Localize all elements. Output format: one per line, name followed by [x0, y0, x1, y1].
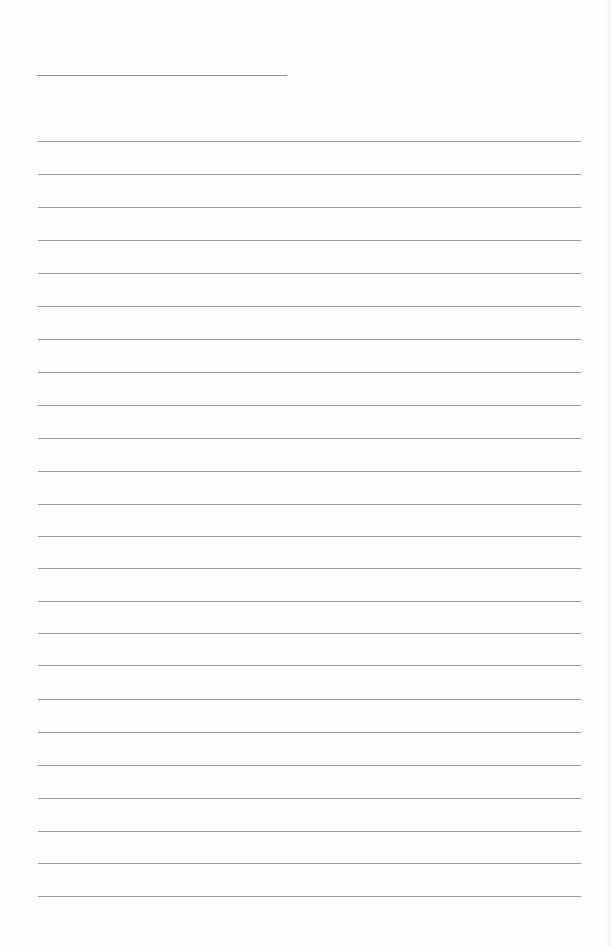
ruled-line — [38, 504, 581, 505]
ruled-line — [38, 896, 581, 897]
ruled-line — [38, 471, 581, 472]
ruled-line — [38, 732, 581, 733]
ruled-line — [38, 765, 581, 766]
ruled-line — [38, 339, 581, 340]
ruled-line — [38, 699, 581, 700]
ruled-line — [38, 405, 581, 406]
ruled-line — [38, 831, 581, 832]
title-underline — [37, 75, 287, 76]
ruled-line — [38, 141, 581, 142]
lined-paper-page — [0, 0, 611, 946]
ruled-line — [38, 601, 581, 602]
ruled-line — [38, 633, 581, 634]
ruled-line — [38, 207, 581, 208]
ruled-line — [38, 863, 581, 864]
page-edge-shadow — [605, 0, 611, 946]
ruled-line — [38, 798, 581, 799]
ruled-line — [38, 372, 581, 373]
ruled-line — [38, 306, 581, 307]
ruled-line — [38, 568, 581, 569]
ruled-line — [38, 665, 581, 666]
ruled-line — [38, 273, 581, 274]
ruled-line — [38, 174, 581, 175]
ruled-line — [38, 438, 581, 439]
ruled-line — [38, 240, 581, 241]
ruled-line — [38, 536, 581, 537]
